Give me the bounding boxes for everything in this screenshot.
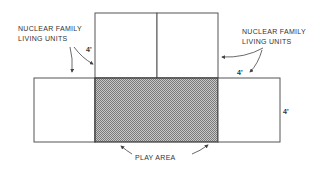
right-units-label-line1: NUCLEAR FAMILY: [242, 28, 306, 35]
left-units-label-line2: LIVING UNITS: [18, 35, 68, 42]
right-living-unit: [218, 78, 280, 142]
arrow-icon: [192, 145, 208, 154]
dimension-top-right: 4': [237, 69, 243, 76]
top-right-living-unit: [157, 13, 218, 78]
arrow-icon: [222, 48, 263, 57]
arrow-icon: [121, 146, 132, 154]
play-area-diagram: NUCLEAR FAMILY LIVING UNITS 4' NUCLEAR F…: [0, 0, 327, 169]
left-living-unit: [34, 78, 95, 142]
arrow-icon: [70, 47, 72, 72]
right-units-label-line2: LIVING UNITS: [242, 38, 292, 45]
left-units-label-line1: NUCLEAR FAMILY: [18, 25, 82, 32]
play-area-shaded: [95, 78, 218, 142]
dimension-top-left: 4': [86, 46, 92, 53]
dimension-right-side: 4': [283, 108, 289, 115]
play-area-label: PLAY AREA: [135, 154, 176, 161]
top-left-living-unit: [95, 13, 157, 78]
